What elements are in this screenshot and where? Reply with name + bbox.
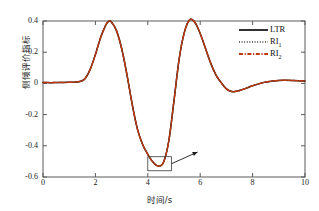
legend-label-ltr: LTR [270,24,285,34]
legend-label-ri2: RI2 [270,48,282,60]
x-tick-label: 6 [190,178,210,187]
x-tick-label: 2 [85,178,105,187]
legend-label-subscript: 1 [279,42,282,48]
x-tick-label: 4 [138,178,158,187]
y-axis-label: 侧倾评价指标 [19,12,33,112]
y-tick-label: -0.4 [14,141,38,150]
legend-label-subscript: 2 [279,54,282,60]
x-axis-label: 时间/s [0,193,319,205]
x-tick-label: 10 [295,178,315,187]
y-tick-label: -0.6 [14,172,38,181]
legend-label-ri1: RI1 [270,36,282,48]
x-tick-label: 8 [243,178,263,187]
